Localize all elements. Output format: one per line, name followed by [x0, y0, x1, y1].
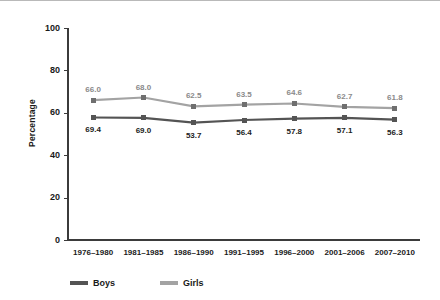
data-point-marker — [141, 115, 146, 120]
data-label: 69.4 — [73, 125, 113, 134]
data-point-marker — [91, 115, 96, 120]
legend-swatch-icon — [70, 281, 88, 285]
data-label: 69.0 — [123, 126, 163, 135]
data-point-marker — [342, 104, 347, 109]
data-label: 61.8 — [375, 93, 415, 102]
data-label: 66.0 — [73, 85, 113, 94]
legend-label: Boys — [93, 278, 115, 288]
data-label: 64.6 — [274, 88, 314, 97]
data-point-marker — [342, 115, 347, 120]
legend-swatch-icon — [160, 281, 178, 285]
data-label: 57.8 — [274, 127, 314, 136]
data-label: 56.3 — [375, 128, 415, 137]
data-label: 68.0 — [123, 83, 163, 92]
data-point-marker — [91, 98, 96, 103]
data-label: 57.1 — [325, 126, 365, 135]
data-point-marker — [392, 117, 397, 122]
data-point-marker — [292, 101, 297, 106]
data-point-marker — [242, 102, 247, 107]
data-point-marker — [292, 116, 297, 121]
plot-lines — [0, 0, 440, 300]
data-label: 56.4 — [224, 128, 264, 137]
data-point-marker — [392, 106, 397, 111]
data-point-marker — [141, 95, 146, 100]
legend-label: Girls — [183, 278, 204, 288]
data-label: 62.7 — [325, 92, 365, 101]
line-chart: Percentage 020406080100 1976–19801981–19… — [0, 0, 440, 300]
data-label: 62.5 — [174, 91, 214, 100]
data-point-marker — [191, 120, 196, 125]
data-point-marker — [242, 118, 247, 123]
data-label: 63.5 — [224, 90, 264, 99]
data-label: 53.7 — [174, 131, 214, 140]
legend-item-boys[interactable]: Boys — [70, 276, 115, 290]
data-point-marker — [191, 104, 196, 109]
chart-legend: BoysGirls — [0, 276, 440, 292]
legend-item-girls[interactable]: Girls — [160, 276, 204, 290]
